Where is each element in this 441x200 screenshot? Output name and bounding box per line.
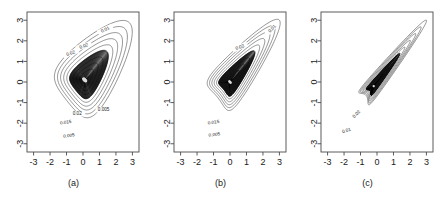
contour-label: 0.015 (60, 119, 73, 126)
panel-caption-c: (c) (294, 178, 441, 189)
x-tick-label: -2 (340, 157, 348, 167)
x-tick-label: 2 (407, 157, 412, 167)
x-tick-label: 3 (424, 157, 429, 167)
panel-plot-a: -3-2-101233210-1-2-30.010.020.020.0050.0… (0, 0, 147, 200)
x-tick-label: 3 (277, 157, 282, 167)
contour-panel-c: -3-2-101233210-1-2-30.020.01(c) (294, 0, 441, 200)
contour-label: 0.02 (73, 111, 82, 116)
contour-panel-b: -3-2-101233210-1-2-30.010.020.0150.005(b… (147, 0, 294, 200)
y-tick-label: -3 (309, 140, 319, 148)
x-tick-label: 0 (227, 157, 232, 167)
y-tick-label: -2 (162, 119, 172, 127)
y-tick-label: 1 (162, 59, 172, 64)
panel-caption-b: (b) (147, 178, 294, 189)
y-tick-label: 3 (162, 18, 172, 23)
contour-label: 0.015 (207, 119, 220, 126)
y-tick-label: 2 (309, 38, 319, 43)
y-tick-label: 1 (309, 59, 319, 64)
x-tick-label: -2 (193, 157, 201, 167)
contour-group: 0.010.020.020.0050.020.0150.005 (54, 20, 132, 139)
panel-plot-b: -3-2-101233210-1-2-30.010.020.0150.005 (147, 0, 294, 200)
contour-group: 0.020.01 (338, 20, 426, 135)
x-tick-label: -3 (30, 157, 38, 167)
panel-plot-c: -3-2-101233210-1-2-30.020.01 (294, 0, 441, 200)
y-tick-label: -1 (162, 99, 172, 107)
contour-panel-a: -3-2-101233210-1-2-30.010.020.020.0050.0… (0, 0, 147, 200)
y-tick-label: 2 (162, 38, 172, 43)
y-tick-label: -2 (309, 119, 319, 127)
y-tick-label: -1 (15, 99, 25, 107)
x-tick-label: -1 (63, 157, 71, 167)
contour-label: 0.005 (63, 132, 76, 139)
x-tick-label: 1 (244, 157, 249, 167)
x-tick-label: -1 (210, 157, 218, 167)
x-tick-label: 3 (130, 157, 135, 167)
y-tick-label: 1 (15, 59, 25, 64)
panel-caption-a: (a) (0, 178, 147, 189)
x-tick-label: -1 (357, 157, 365, 167)
y-tick-label: 0 (309, 79, 319, 84)
x-tick-label: 2 (260, 157, 265, 167)
x-tick-label: 1 (391, 157, 396, 167)
x-tick-label: -3 (324, 157, 332, 167)
x-tick-label: 0 (374, 157, 379, 167)
y-tick-label: 3 (15, 18, 25, 23)
x-tick-label: 1 (97, 157, 102, 167)
x-tick-label: 0 (80, 157, 85, 167)
contour-label: 0.005 (208, 131, 221, 138)
y-tick-label: 0 (162, 79, 172, 84)
y-tick-label: -1 (309, 99, 319, 107)
y-tick-label: 2 (15, 38, 25, 43)
y-tick-label: -2 (15, 119, 25, 127)
y-tick-label: -3 (15, 140, 25, 148)
y-tick-label: 0 (15, 79, 25, 84)
x-tick-label: -3 (177, 157, 185, 167)
x-tick-label: -2 (46, 157, 54, 167)
contour-label: 0.005 (98, 107, 110, 112)
x-tick-label: 2 (113, 157, 118, 167)
y-tick-label: 3 (309, 18, 319, 23)
contour-group: 0.010.020.0150.005 (205, 19, 280, 138)
y-tick-label: -3 (162, 140, 172, 148)
contour-figure: -3-2-101233210-1-2-30.010.020.020.0050.0… (0, 0, 441, 200)
